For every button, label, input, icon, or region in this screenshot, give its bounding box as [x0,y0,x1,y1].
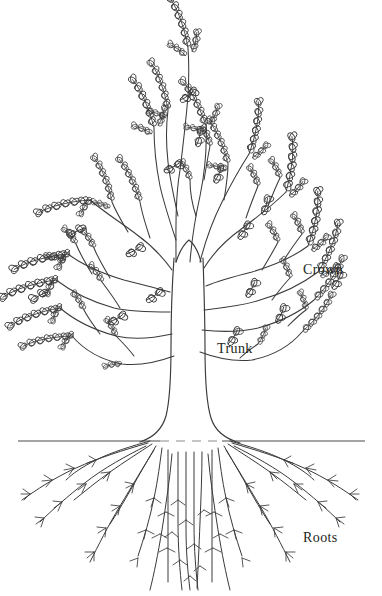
crown-foliage [0,0,359,374]
label-trunk: Trunk [217,341,253,357]
label-crown: Crown [303,262,343,278]
root-system [21,441,359,590]
label-roots: Roots [303,530,338,546]
tree-diagram: Crown Trunk Roots [0,0,382,596]
tree-illustration [0,0,382,596]
